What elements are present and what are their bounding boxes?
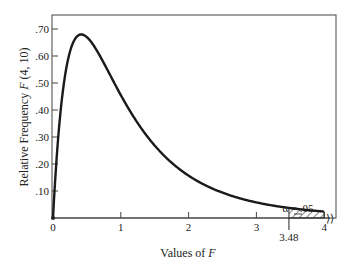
y-tick-label: .60 xyxy=(35,50,49,62)
x-tick-label: 1 xyxy=(118,221,124,233)
x-tick-label: 3 xyxy=(254,221,260,233)
y-tick-label: .70 xyxy=(35,23,49,35)
y-tick-label: .40 xyxy=(35,104,49,116)
y-tick-label: .30 xyxy=(35,131,49,143)
critical-value-label: 3.48 xyxy=(279,231,299,243)
y-tick-label: .20 xyxy=(35,158,49,170)
x-tick-label: 0 xyxy=(50,221,56,233)
density-curve xyxy=(53,34,324,218)
x-axis-ticks: 01234 xyxy=(50,212,327,233)
y-axis-title: Relative Frequency F (4, 10) xyxy=(17,48,31,187)
x-axis-title: Values of F xyxy=(160,246,216,260)
y-tick-label: .10 xyxy=(35,185,49,197)
f-distribution-chart: .10.20.30.40.50.60.70 01234 ⟩⟩ α = .05 3… xyxy=(0,0,355,267)
alpha-label: α = .05 xyxy=(282,202,314,214)
x-tick-label: 2 xyxy=(186,221,192,233)
y-tick-label: .50 xyxy=(35,77,49,89)
axis-break-icon: ⟩⟩ xyxy=(326,212,334,224)
origin-dot xyxy=(51,216,55,220)
